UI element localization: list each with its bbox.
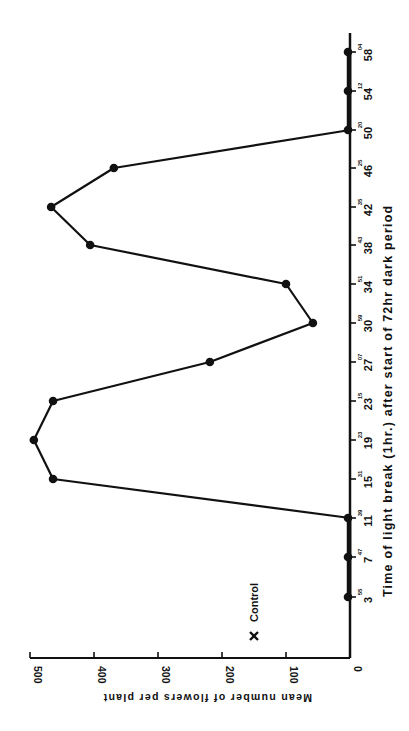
time-tick-label: 42 xyxy=(362,204,374,216)
control-x-icon xyxy=(250,632,258,640)
time-tick-label: 7 xyxy=(362,557,374,563)
time-tick-minutes: 31 xyxy=(357,470,363,477)
data-point xyxy=(110,164,119,173)
data-point xyxy=(49,475,58,484)
data-series xyxy=(30,48,353,602)
time-tick-minutes: 51 xyxy=(357,275,363,282)
data-point xyxy=(30,436,39,445)
value-tick-label: 100 xyxy=(288,666,300,684)
value-tick-label: 400 xyxy=(96,666,108,684)
time-tick-label: 11 xyxy=(362,515,374,527)
value-tick-label: 300 xyxy=(160,666,172,684)
time-tick-minutes: 47 xyxy=(357,548,363,555)
y-axis-label: Mean number of flowers per plant xyxy=(102,692,312,704)
chart: 3557471139153119232315270730593451384342… xyxy=(0,0,409,731)
time-tick-label: 27 xyxy=(362,359,374,371)
time-tick-minutes: 43 xyxy=(357,236,363,243)
time-tick-minutes: 07 xyxy=(357,353,363,360)
data-point xyxy=(86,241,95,250)
data-point xyxy=(344,593,353,602)
time-tick-label: 58 xyxy=(362,49,374,61)
time-axis: 3557471139153119232315270730593451384342… xyxy=(350,33,374,658)
time-tick-label: 19 xyxy=(362,437,374,449)
time-tick-label: 54 xyxy=(362,87,374,100)
time-tick-label: 3 xyxy=(362,597,374,603)
data-point xyxy=(309,319,318,328)
data-point xyxy=(344,87,353,96)
time-tick-label: 34 xyxy=(362,280,374,293)
time-tick-minutes: 04 xyxy=(357,43,363,50)
value-tick-label: 200 xyxy=(224,666,236,684)
x-axis-label: Time of light break (1hr.) after start o… xyxy=(381,205,395,597)
control-marker: Control xyxy=(248,583,260,640)
control-label: Control xyxy=(248,583,260,622)
data-point xyxy=(344,126,353,135)
time-tick-minutes: 15 xyxy=(357,392,363,399)
data-point xyxy=(282,280,291,289)
time-tick-label: 38 xyxy=(362,242,374,254)
data-point xyxy=(344,48,353,57)
value-axis: 0100200300400500 xyxy=(30,652,364,684)
value-tick-label: 0 xyxy=(352,666,364,672)
data-point xyxy=(49,397,58,406)
value-tick-label: 500 xyxy=(32,666,44,684)
time-tick-minutes: 59 xyxy=(357,314,363,321)
time-tick-minutes: 39 xyxy=(357,509,363,516)
time-tick-label: 46 xyxy=(362,165,374,177)
time-tick-minutes: 12 xyxy=(357,82,363,89)
time-tick-minutes: 25 xyxy=(357,159,363,166)
data-point xyxy=(47,203,56,212)
time-tick-minutes: 35 xyxy=(357,198,363,205)
data-point xyxy=(344,514,353,523)
data-point xyxy=(344,553,353,562)
time-tick-label: 23 xyxy=(362,398,374,410)
time-tick-label: 50 xyxy=(362,127,374,139)
time-tick-minutes: 20 xyxy=(357,121,363,128)
time-tick-label: 30 xyxy=(362,320,374,332)
time-tick-minutes: 23 xyxy=(357,431,363,438)
time-tick-minutes: 55 xyxy=(357,588,363,595)
time-tick-label: 15 xyxy=(362,476,374,488)
data-point xyxy=(206,358,215,367)
